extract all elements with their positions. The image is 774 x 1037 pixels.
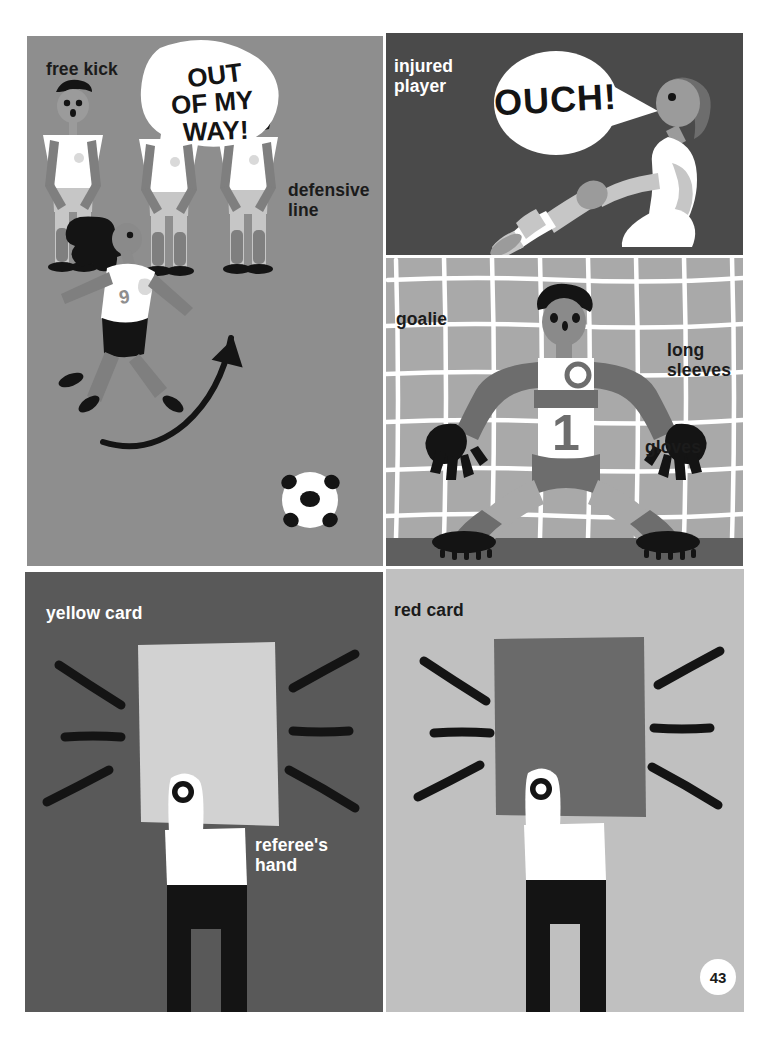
soccer-ball — [279, 472, 343, 530]
label-defensive-line: defensive line — [288, 180, 370, 220]
red-card-shape — [494, 637, 646, 817]
goalie-illustration: 1 — [386, 258, 743, 566]
panel-red-card — [386, 569, 744, 1012]
label-free-kick: free kick — [46, 59, 118, 79]
label-injured-player: injured player — [394, 56, 453, 96]
goalie-jersey-number: 1 — [552, 405, 580, 461]
speech-text-ouch: OUCH! — [493, 76, 618, 124]
red-card-illustration — [386, 569, 744, 1012]
yellow-card-shape — [138, 642, 279, 826]
label-yellow-card: yellow card — [46, 603, 142, 623]
motion-lines-right — [652, 651, 720, 805]
label-long-sleeves: long sleeves — [667, 340, 731, 380]
yellow-card-illustration — [25, 572, 383, 1012]
speech-text-out-of-my-way: OUT OF MY WAY! — [165, 58, 295, 145]
motion-lines-left — [418, 661, 490, 797]
label-goalie: goalie — [396, 309, 447, 329]
label-red-card: red card — [394, 600, 464, 620]
speech-line-3: WAY! — [183, 114, 296, 147]
illustrated-book-page: 9 — [0, 0, 774, 1037]
label-gloves: gloves — [645, 437, 701, 457]
label-referees-hand: referee's hand — [255, 835, 328, 875]
panel-yellow-card — [25, 572, 383, 1012]
striker-player: 9 — [57, 217, 193, 416]
page-number-badge: 43 — [700, 959, 736, 995]
panel-free-kick: 9 — [27, 36, 383, 566]
motion-lines-right — [289, 654, 355, 808]
panel-goalie: 1 — [386, 258, 743, 566]
motion-lines-left — [47, 665, 121, 802]
